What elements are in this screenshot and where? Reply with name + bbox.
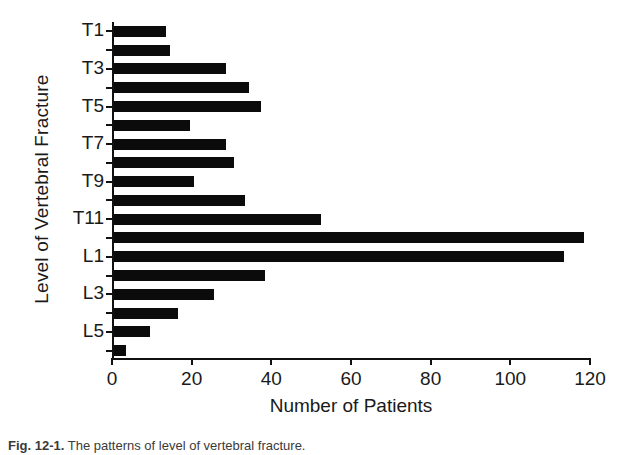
figure-caption: Fig. 12-1. The patterns of level of vert… xyxy=(8,438,628,454)
y-tick-mark-s1 xyxy=(106,350,112,352)
bar-fill xyxy=(114,251,564,262)
plot-area: T1T3T5T7T9T11L1L3L5 020406080100120 xyxy=(112,22,590,360)
x-tick-label-100: 100 xyxy=(480,368,540,390)
y-tick-mark-t4 xyxy=(106,87,112,89)
bar-fill xyxy=(114,195,245,206)
y-tick-mark-t12 xyxy=(106,237,112,239)
y-tick-label-t9: T9 xyxy=(82,171,104,190)
x-tick-mark-100 xyxy=(509,358,511,365)
bar-fill xyxy=(114,157,234,168)
y-tick-label-l3: L3 xyxy=(83,283,104,302)
figure-caption-text: The patterns of level of vertebral fract… xyxy=(68,438,306,453)
y-tick-label-holder: T9 xyxy=(112,182,113,183)
bar-fill xyxy=(114,101,261,112)
y-tick-label-l5: L5 xyxy=(83,321,104,340)
bar-t10 xyxy=(114,195,245,206)
x-tick-label-40: 40 xyxy=(241,368,301,390)
bar-fill xyxy=(114,82,249,93)
bar-t7 xyxy=(114,139,226,150)
bar-fill xyxy=(114,176,194,187)
figure-caption-label: Fig. 12-1. xyxy=(8,438,64,453)
x-tick-label-80: 80 xyxy=(401,368,461,390)
bar-l1 xyxy=(114,251,564,262)
y-tick-label-t7: T7 xyxy=(82,133,104,152)
bar-fill xyxy=(114,308,178,319)
y-tick-label-holder: T1 xyxy=(112,31,113,32)
y-tick-label-holder: L1 xyxy=(112,257,113,258)
y-tick-label-t3: T3 xyxy=(82,58,104,77)
bar-t8 xyxy=(114,157,234,168)
x-tick-mark-20 xyxy=(191,358,193,365)
x-tick-mark-80 xyxy=(430,358,432,365)
bar-l4 xyxy=(114,308,178,319)
bar-fill xyxy=(114,289,214,300)
bar-fill xyxy=(114,232,584,243)
y-tick-label-holder: L5 xyxy=(112,332,113,333)
x-tick-label-0: 0 xyxy=(82,368,142,390)
y-tick-mark-t2 xyxy=(106,49,112,51)
bar-t11 xyxy=(114,214,321,225)
bar-t9 xyxy=(114,176,194,187)
bar-t1 xyxy=(114,26,166,37)
y-tick-label-l1: L1 xyxy=(83,246,104,265)
bar-t5 xyxy=(114,101,261,112)
bar-l3 xyxy=(114,289,214,300)
bar-fill xyxy=(114,214,321,225)
bar-t4 xyxy=(114,82,249,93)
bar-t6 xyxy=(114,120,190,131)
y-tick-label-t5: T5 xyxy=(82,96,104,115)
y-tick-mark-l2 xyxy=(106,275,112,277)
bar-fill xyxy=(114,63,226,74)
y-tick-mark-t8 xyxy=(106,162,112,164)
bar-fill xyxy=(114,270,265,281)
bar-fill xyxy=(114,326,150,337)
x-tick-label-120: 120 xyxy=(560,368,620,390)
y-axis-title: Level of Vertebral Fracture xyxy=(31,19,53,359)
y-tick-label-holder: T5 xyxy=(112,107,113,108)
y-tick-label-holder: T7 xyxy=(112,144,113,145)
bar-fill xyxy=(114,345,126,356)
y-tick-label-holder: T11 xyxy=(112,219,113,220)
bar-l5 xyxy=(114,326,150,337)
y-tick-mark-t10 xyxy=(106,199,112,201)
y-tick-mark-t6 xyxy=(106,124,112,126)
bar-t12 xyxy=(114,232,584,243)
y-tick-mark-l4 xyxy=(106,312,112,314)
x-axis-title: Number of Patients xyxy=(112,395,590,417)
y-tick-label-t11: T11 xyxy=(73,208,104,227)
y-tick-label-holder: T3 xyxy=(112,69,113,70)
bar-fill xyxy=(114,139,226,150)
x-tick-label-60: 60 xyxy=(321,368,381,390)
x-tick-mark-0 xyxy=(111,358,113,365)
bar-fill xyxy=(114,45,170,56)
figure-chart: Level of Vertebral Fracture T1T3T5T7T9T1… xyxy=(0,0,635,455)
bar-l2 xyxy=(114,270,265,281)
y-tick-label-t1: T1 xyxy=(82,20,104,39)
x-tick-label-20: 20 xyxy=(162,368,222,390)
x-tick-mark-120 xyxy=(589,358,591,365)
bar-fill xyxy=(114,120,190,131)
y-tick-label-holder: L3 xyxy=(112,294,113,295)
bar-s1 xyxy=(114,345,126,356)
bar-t3 xyxy=(114,63,226,74)
bar-fill xyxy=(114,26,166,37)
x-tick-mark-40 xyxy=(270,358,272,365)
bar-t2 xyxy=(114,45,170,56)
x-tick-mark-60 xyxy=(350,358,352,365)
